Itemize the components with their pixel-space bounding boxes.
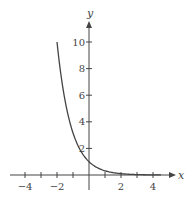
x-tick-label: −4 [18, 181, 33, 192]
y-axis-arrow-icon [86, 21, 92, 28]
y-tick-label: 6 [79, 90, 85, 101]
tick-labels: −4−224246810 [18, 37, 157, 193]
x-tick-label: 2 [118, 181, 124, 192]
x-axis-arrow-icon [169, 172, 176, 178]
data-curve [57, 42, 161, 175]
y-tick-label: 4 [79, 116, 85, 127]
x-tick-label: −2 [50, 181, 65, 192]
y-tick-label: 8 [79, 63, 85, 74]
x-axis-label: x [178, 169, 185, 182]
y-axis-label: y [86, 7, 94, 20]
exponential-decay-chart: −4−224246810 x y [0, 0, 191, 203]
x-tick-label: 4 [150, 181, 156, 192]
y-tick-label: 10 [72, 37, 85, 48]
